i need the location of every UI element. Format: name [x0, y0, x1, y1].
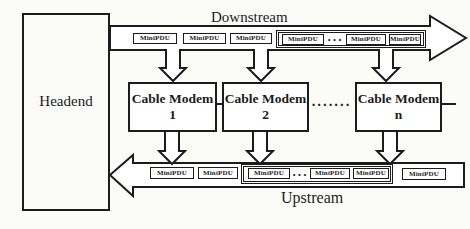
minipdu-box: MiniPDU: [310, 168, 350, 179]
up-arrow-from-modem-1: [159, 132, 185, 164]
cable-modem-n-box: Cable Modem n: [355, 82, 442, 132]
minipdu-box: MiniPDU: [230, 33, 272, 44]
down-arrow-to-modem-2: [248, 49, 274, 81]
ellipsis-dots: ···: [325, 33, 345, 46]
minipdu-box: MiniPDU: [133, 33, 177, 44]
cable-modem-name: Cable Modem: [225, 91, 306, 107]
minipdu-box: MiniPDU: [346, 34, 386, 45]
minipdu-box: MiniPDU: [353, 168, 389, 179]
cable-modem-name: Cable Modem: [132, 91, 213, 107]
minipdu-box: MiniPDU: [248, 168, 290, 179]
headend-label: Headend: [39, 93, 92, 110]
down-arrow-to-modem-n: [373, 49, 399, 81]
upstream-pdu-group: MiniPDU ··· MiniPDU MiniPDU: [243, 166, 391, 182]
up-arrow-from-modem-n: [377, 132, 403, 164]
minipdu-box: MiniPDU: [150, 167, 194, 179]
minipdu-box: MiniPDU: [183, 33, 226, 44]
downstream-pdu-group: MiniPDU ··· MiniPDU MiniPDU: [278, 32, 424, 46]
cable-modem-name: Cable Modem: [358, 91, 439, 107]
minipdu-box: MiniPDU: [198, 167, 238, 179]
down-arrow-to-modem-1: [160, 49, 186, 81]
network-diagram: Headend Downstream MiniPDU MiniPDU MiniP…: [0, 0, 470, 229]
ellipsis-dots: ···: [291, 167, 309, 181]
cable-modem-2-box: Cable Modem 2: [222, 82, 309, 132]
cable-modem-1-box: Cable Modem 1: [128, 82, 217, 132]
modem-ellipsis-dots: ·······: [309, 98, 353, 114]
cable-modem-number: n: [395, 107, 403, 123]
up-arrow-from-modem-2: [247, 132, 273, 164]
minipdu-box: MiniPDU: [402, 168, 446, 180]
headend-box: Headend: [22, 13, 110, 211]
cable-modem-number: 1: [169, 107, 176, 123]
minipdu-box: MiniPDU: [389, 34, 421, 45]
upstream-label: Upstream: [281, 189, 343, 207]
downstream-label: Downstream: [211, 9, 288, 26]
cable-modem-number: 2: [262, 107, 269, 123]
minipdu-box: MiniPDU: [282, 34, 324, 45]
